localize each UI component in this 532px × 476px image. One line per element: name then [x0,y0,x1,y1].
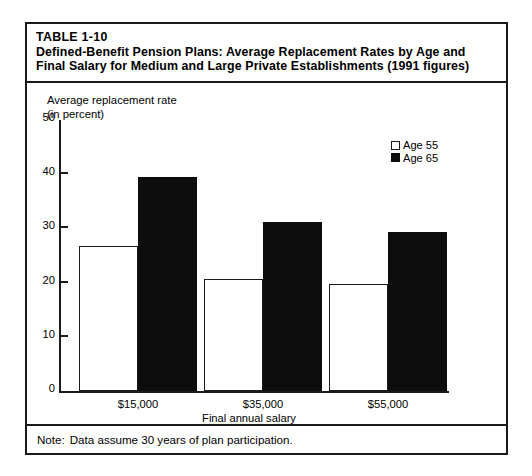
chart-area: Average replacement rate (in percent) Ag… [27,86,506,424]
x-tick-label-35000: $35,000 [243,398,283,410]
bar-age65-15000[interactable] [138,177,197,391]
y-tick-20: 20 [61,281,68,283]
y-axis-title: Average replacement rate (in percent) [47,94,177,121]
note-text: Data assume 30 years of plan participati… [70,433,293,446]
plot-area: 0 10 20 30 40 50 $15,000 $3 [59,120,449,391]
table-number: TABLE 1-10 [36,30,497,45]
y-tick-label-0: 0 [29,382,55,394]
x-tick-label-15000: $15,000 [118,398,158,410]
bar-age55-15000[interactable] [79,246,138,391]
y-tick-label-10: 10 [29,328,55,340]
figure-frame: TABLE 1-10 Defined-Benefit Pension Plans… [25,22,508,455]
note-label: Note: [37,433,65,446]
bar-age65-35000[interactable] [263,222,322,391]
y-tick-label-30: 30 [29,219,55,231]
title-block: TABLE 1-10 Defined-Benefit Pension Plans… [27,24,506,83]
x-tick-label-55000: $55,000 [368,398,408,410]
y-tick-label-50: 50 [29,111,55,123]
y-tick-label-20: 20 [29,274,55,286]
bar-age55-55000[interactable] [329,284,388,391]
bar-age55-35000[interactable] [204,279,263,391]
y-tick-10: 10 [61,335,68,337]
y-tick-40: 40 [61,172,68,174]
title-line-1: Defined-Benefit Pension Plans: Average R… [36,45,497,60]
y-tick-label-40: 40 [29,165,55,177]
y-tick-30: 30 [61,226,68,228]
bar-age65-55000[interactable] [388,232,447,391]
x-axis-line [59,391,449,393]
y-axis-title-line-1: Average replacement rate [47,94,177,108]
x-axis-title: Final annual salary [202,412,296,424]
title-line-2: Final Salary for Medium and Large Privat… [36,59,497,74]
y-axis-line [59,120,61,393]
note-block: Note:Data assume 30 years of plan partic… [27,424,506,453]
